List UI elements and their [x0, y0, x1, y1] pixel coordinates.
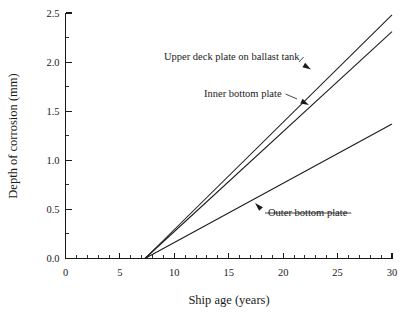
chart-background [0, 0, 410, 313]
x-tick-label: 20 [278, 267, 289, 278]
y-tick-label: 1.5 [46, 106, 59, 117]
y-tick-label: 0.5 [46, 204, 59, 215]
annotation-label: Outer bottom plate [268, 207, 348, 218]
y-tick-label: 2.5 [46, 8, 59, 19]
x-tick-label: 0 [63, 267, 68, 278]
x-tick-label: 5 [117, 267, 122, 278]
corrosion-depth-chart: 051015202530 0.00.51.01.52.02.5 Upper de… [0, 0, 410, 313]
x-tick-label: 25 [332, 267, 343, 278]
chart-canvas: 051015202530 0.00.51.01.52.02.5 Upper de… [0, 0, 410, 313]
x-tick-label: 15 [224, 267, 235, 278]
annotation-label: Upper deck plate on ballast tank [164, 51, 300, 62]
annotation-label: Inner bottom plate [204, 88, 282, 99]
y-axis-title: Depth of corrosion (mm) [6, 73, 20, 198]
x-tick-label: 30 [387, 267, 398, 278]
x-axis-title: Ship age (years) [188, 293, 269, 307]
x-tick-label: 10 [169, 267, 180, 278]
y-tick-label: 2.0 [46, 57, 59, 68]
y-tick-label: 1.0 [46, 155, 59, 166]
y-tick-label: 0.0 [46, 253, 59, 264]
